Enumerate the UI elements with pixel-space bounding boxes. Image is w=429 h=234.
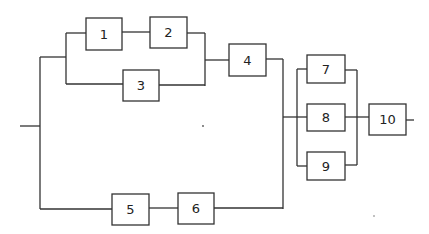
- block-7-label: 7: [322, 62, 330, 77]
- reliability-block-diagram: 1 2 3 4 5 6 7 8 9 10: [0, 0, 429, 234]
- block-10: 10: [369, 104, 406, 135]
- block-4: 4: [229, 44, 266, 76]
- block-5-label: 5: [126, 202, 134, 217]
- block-9-label: 9: [322, 159, 330, 174]
- block-5: 5: [112, 194, 149, 225]
- block-9: 9: [307, 152, 345, 180]
- block-3-label: 3: [137, 78, 145, 93]
- block-3: 3: [123, 70, 159, 101]
- block-8-label: 8: [322, 110, 330, 125]
- block-6-label: 6: [192, 201, 200, 216]
- block-2: 2: [150, 17, 187, 48]
- block-8: 8: [307, 104, 345, 131]
- block-2-label: 2: [164, 25, 172, 40]
- block-1-label: 1: [100, 27, 108, 42]
- block-10-label: 10: [379, 112, 396, 127]
- block-1: 1: [86, 18, 122, 50]
- block-4-label: 4: [243, 53, 251, 68]
- connection-wires: [20, 32, 414, 209]
- scan-speck: [373, 215, 374, 216]
- block-7: 7: [307, 55, 345, 83]
- scan-speck: [202, 125, 204, 127]
- block-6: 6: [178, 193, 214, 224]
